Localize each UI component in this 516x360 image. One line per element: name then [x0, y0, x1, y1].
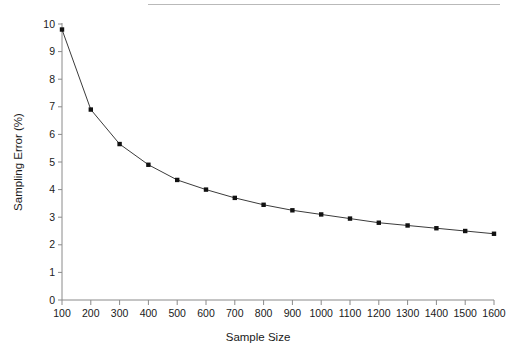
data-point-marker [89, 107, 93, 111]
data-point-marker [492, 232, 496, 236]
data-point-marker [434, 226, 438, 230]
data-point-marker [146, 163, 150, 167]
y-tick-label: 1 [49, 266, 55, 278]
chart-figure: 012345678910 100200300400500600700800900… [0, 0, 516, 360]
data-point-marker [405, 223, 409, 227]
x-tick-label: 500 [168, 307, 186, 319]
y-tick-label: 0 [49, 294, 55, 306]
sampling-error-line-chart: 012345678910 100200300400500600700800900… [0, 0, 516, 360]
data-point-marker [233, 196, 237, 200]
data-point-marker [463, 229, 467, 233]
y-tick-label: 5 [49, 156, 55, 168]
data-point-marker [117, 142, 121, 146]
x-tick-label: 1000 [310, 307, 334, 319]
data-point-marker [290, 208, 294, 212]
y-axis-title: Sampling Error (%) [12, 113, 24, 211]
y-tick-label: 4 [49, 183, 55, 195]
x-axis: 1002003004005006007008009001000110012001… [53, 300, 506, 319]
y-tick-label: 3 [49, 211, 55, 223]
data-point-marker [261, 203, 265, 207]
x-tick-label: 700 [226, 307, 244, 319]
x-tick-label: 200 [82, 307, 100, 319]
x-tick-label: 600 [197, 307, 215, 319]
data-point-marker [204, 187, 208, 191]
x-tick-label: 1300 [396, 307, 420, 319]
y-tick-label: 10 [43, 18, 55, 30]
data-series-sampling-error [60, 27, 496, 236]
data-point-marker [175, 178, 179, 182]
x-tick-label: 1400 [425, 307, 449, 319]
x-tick-label: 900 [284, 307, 302, 319]
data-point-marker [60, 27, 64, 31]
y-tick-label: 2 [49, 238, 55, 250]
x-tick-label: 1200 [367, 307, 391, 319]
x-tick-label: 300 [111, 307, 129, 319]
x-tick-label: 800 [255, 307, 273, 319]
y-tick-label: 8 [49, 73, 55, 85]
x-tick-label: 1600 [482, 307, 506, 319]
y-tick-label: 6 [49, 128, 55, 140]
data-point-marker [319, 212, 323, 216]
y-tick-label: 7 [49, 100, 55, 112]
data-point-marker [348, 216, 352, 220]
y-tick-label: 9 [49, 45, 55, 57]
y-axis: 012345678910 [43, 18, 62, 306]
x-tick-label: 1100 [339, 307, 362, 319]
x-tick-label: 1500 [454, 307, 478, 319]
x-tick-label: 100 [53, 307, 71, 319]
data-point-marker [377, 221, 381, 225]
x-axis-title: Sample Size [226, 331, 291, 343]
x-tick-label: 400 [140, 307, 158, 319]
